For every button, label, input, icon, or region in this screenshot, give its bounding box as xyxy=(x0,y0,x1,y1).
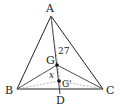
label-d: D xyxy=(56,94,65,107)
label-x: x xyxy=(49,70,54,80)
label-g: G xyxy=(46,54,55,67)
label-a: A xyxy=(45,2,55,15)
point-gp xyxy=(57,79,61,83)
label-length-27: 27 xyxy=(58,46,70,56)
point-g xyxy=(55,63,59,67)
triangle-diagram: A B C D G G' 27 x xyxy=(0,0,123,110)
label-c: C xyxy=(106,84,114,97)
label-gp: G' xyxy=(62,79,72,89)
label-b: B xyxy=(5,84,13,97)
